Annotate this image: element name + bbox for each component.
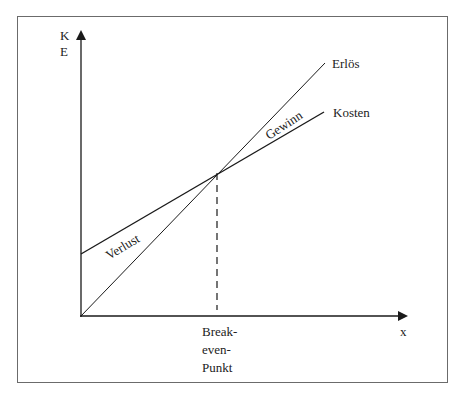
x-axis-label: x: [400, 324, 407, 339]
y-axis-label-e: E: [60, 44, 68, 59]
cost-label: Kosten: [333, 105, 370, 120]
revenue-label: Erlös: [332, 56, 359, 71]
revenue-line: [81, 63, 325, 316]
break-even-diagram: K E x Erlös Kosten Gewinn Verlust Break-…: [0, 0, 463, 396]
profit-label: Gewinn: [262, 107, 305, 142]
break-even-label-line3: Punkt: [202, 360, 233, 375]
break-even-label-line1: Break-: [202, 324, 237, 339]
cost-line: [81, 112, 324, 254]
y-axis-label-k: K: [60, 28, 70, 43]
break-even-label-line2: even-: [202, 342, 231, 357]
